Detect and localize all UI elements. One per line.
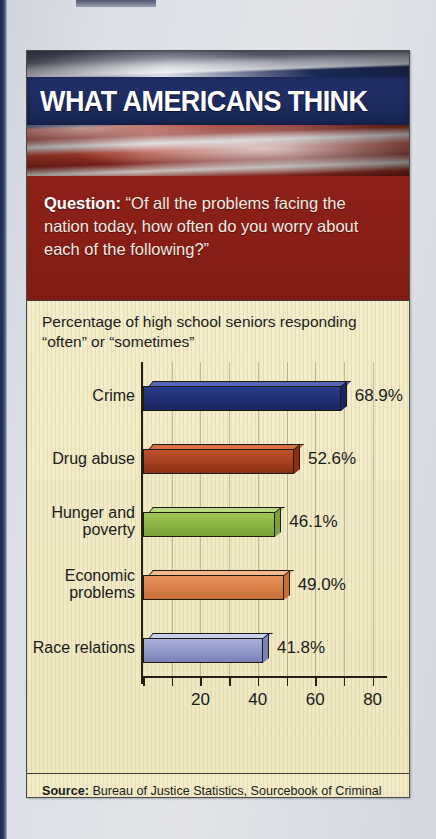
x-axis-tick [172,677,174,686]
header-banner: WHAT AMERICANS THINK [27,51,409,176]
bar [143,507,282,537]
question-text: Question: “Of all the problems facing th… [44,192,393,261]
x-axis-tick-label: 20 [191,690,210,710]
bar-side-face [263,633,269,663]
question-panel: Question: “Of all the problems facing th… [27,176,409,300]
question-label: Question: [44,194,121,212]
bar-value-label: 68.9% [355,386,403,406]
page-background: WHAT AMERICANS THINK Question: “Of all t… [0,0,436,839]
chart-subtitle: Percentage of high school seniors respon… [27,312,409,352]
x-axis-tick [344,677,346,686]
page-spine [0,0,7,839]
x-axis-tick [143,677,145,686]
bar-category-label: Race relations [27,639,135,657]
bar-category-label: Crime [27,387,135,405]
x-axis-tick [287,677,289,686]
source-body: Bureau of Justice Statistics, Sourcebook… [42,784,381,798]
x-axis-tick [200,677,202,686]
bar [143,444,301,474]
source-panel: Source: Bureau of Justice Statistics, So… [27,773,409,798]
bar-front-face [143,575,284,600]
bar-row: Economic problems49.0% [27,553,409,616]
bar-side-face [275,507,281,537]
source-label: Source: [42,784,89,798]
bar-side-face [284,570,290,600]
bar-row: Hunger and poverty46.1% [27,490,409,553]
bar-value-label: 52.6% [308,449,356,469]
bar-front-face [143,638,263,663]
bar [143,570,291,600]
x-axis-tick [373,677,375,686]
bar-front-face [143,512,275,537]
bar-chart-plot: Crime68.9%Drug abuse52.6%Hunger and pove… [27,362,409,714]
page-title: WHAT AMERICANS THINK [27,85,367,118]
infographic-box: WHAT AMERICANS THINK Question: “Of all t… [26,50,410,798]
x-axis-tick [258,677,260,686]
page-top-artifact [76,0,156,7]
bar-side-face [294,444,300,474]
bar-side-face [341,381,347,411]
bar [143,381,348,411]
x-axis-tick-label: 40 [248,690,267,710]
bar-value-label: 41.8% [277,638,325,658]
bar-category-label: Hunger and poverty [27,504,135,539]
x-axis-tick [315,677,317,686]
bar-row: Drug abuse52.6% [27,427,409,490]
bar-front-face [143,449,294,474]
bar-row: Race relations41.8% [27,616,409,679]
bar-front-face [143,386,341,411]
title-band: WHAT AMERICANS THINK [27,77,409,125]
x-axis-tick-label: 60 [306,690,325,710]
source-text: Source: Bureau of Justice Statistics, So… [42,783,395,798]
bar-category-label: Drug abuse [27,450,135,468]
bar-value-label: 46.1% [289,512,337,532]
x-axis-tick [229,677,231,686]
chart-panel: Percentage of high school seniors respon… [27,300,409,773]
bar-row: Crime68.9% [27,364,409,427]
x-axis-tick-label: 80 [363,690,382,710]
bar-value-label: 49.0% [298,575,346,595]
bar-category-label: Economic problems [27,567,135,602]
bar [143,633,270,663]
